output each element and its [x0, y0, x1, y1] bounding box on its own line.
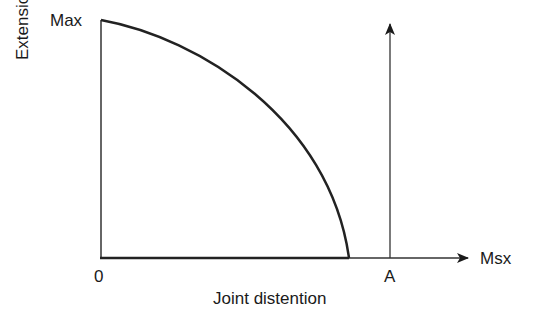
x-axis-label: Joint distention	[213, 290, 326, 307]
y-axis-label: Extension force	[14, 0, 31, 60]
x-end-label: Msx	[480, 250, 511, 267]
chart-canvas	[0, 0, 536, 325]
x-origin-label: 0	[94, 268, 103, 285]
x-a-label: A	[384, 268, 395, 285]
y-max-label: Max	[50, 12, 82, 29]
force-curve	[101, 20, 349, 258]
